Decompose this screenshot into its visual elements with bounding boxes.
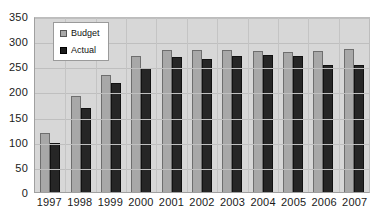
bar-actual [202, 59, 212, 192]
bar-actual [323, 65, 333, 192]
y-axis-tick: 100 [9, 137, 28, 149]
x-axis-tick: 2003 [217, 196, 248, 208]
category-separator [308, 18, 309, 192]
bar-actual [354, 65, 364, 192]
gridline [35, 18, 369, 19]
y-axis-tick: 350 [9, 11, 28, 23]
legend-item: Budget [60, 28, 100, 38]
bar-actual [141, 68, 151, 192]
bar-actual [232, 56, 242, 192]
bar-chart: 350300250200150100500 BudgetActual 19971… [0, 0, 374, 222]
bar-actual [172, 57, 182, 192]
x-axis-tick: 2007 [339, 196, 370, 208]
category-separator [217, 18, 218, 192]
x-axis-tick: 2005 [278, 196, 309, 208]
y-axis-tick: 250 [9, 61, 28, 73]
actual-swatch-icon [60, 47, 67, 54]
x-axis-tick: 1998 [65, 196, 96, 208]
y-axis-tick: 150 [9, 112, 28, 124]
x-axis-tick: 1997 [34, 196, 65, 208]
gridline [35, 93, 369, 94]
category-separator [126, 18, 127, 192]
category-separator [156, 18, 157, 192]
bar-budget [344, 49, 354, 192]
y-axis: 350300250200150100500 [0, 0, 32, 222]
x-axis-tick: 2000 [126, 196, 157, 208]
bar-actual [81, 108, 91, 192]
bar-budget [253, 51, 263, 192]
category-separator [187, 18, 188, 192]
bar-budget [313, 51, 323, 192]
x-axis-tick: 1999 [95, 196, 126, 208]
y-axis-tick: 50 [15, 162, 28, 174]
x-axis-tick: 2002 [187, 196, 218, 208]
legend-item: Actual [60, 45, 100, 55]
bar-budget [131, 56, 141, 192]
x-axis-tick: 2001 [156, 196, 187, 208]
bar-budget [40, 133, 50, 192]
y-axis-tick: 300 [9, 36, 28, 48]
bar-actual [50, 143, 60, 192]
bar-budget [222, 50, 232, 192]
gridline [35, 169, 369, 170]
category-separator [339, 18, 340, 192]
gridline [35, 68, 369, 69]
gridline [35, 144, 369, 145]
legend-item-label: Budget [71, 28, 100, 38]
x-axis: 1997199819992000200120022003200420052006… [34, 196, 370, 208]
bar-actual [111, 83, 121, 192]
category-separator [248, 18, 249, 192]
budget-swatch-icon [60, 30, 67, 37]
x-axis-tick: 2004 [248, 196, 279, 208]
bar-budget [192, 50, 202, 192]
bar-budget [162, 50, 172, 192]
category-separator [278, 18, 279, 192]
chart-legend: BudgetActual [53, 22, 109, 61]
bar-budget [283, 52, 293, 192]
x-axis-tick: 2006 [309, 196, 340, 208]
y-axis-tick: 0 [22, 187, 28, 199]
legend-item-label: Actual [71, 45, 96, 55]
y-axis-tick: 200 [9, 86, 28, 98]
bar-actual [293, 56, 303, 192]
bar-actual [263, 55, 273, 192]
gridline [35, 119, 369, 120]
